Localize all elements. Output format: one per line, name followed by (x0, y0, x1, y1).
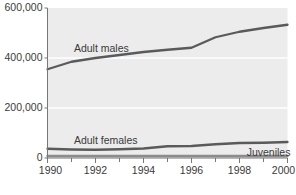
x-axis-tick-label: 1994 (124, 164, 164, 176)
x-axis-tick-label: 2000 (264, 164, 296, 176)
y-axis-tick-label: 400,000 (5, 51, 43, 63)
series-label-adult-females: Adult females (74, 134, 138, 146)
x-axis-tick-label: 1996 (172, 164, 212, 176)
x-axis-tick-label: 1998 (220, 164, 260, 176)
series-label-adult-males: Adult males (74, 42, 129, 54)
x-axis-tick-label: 1990 (31, 164, 71, 176)
y-axis-tick-label: 0 (37, 151, 43, 163)
series-label-juveniles: Juveniles (247, 146, 291, 158)
y-axis-tick-label: 200,000 (5, 101, 43, 113)
x-axis-tick-label: 1992 (76, 164, 116, 176)
y-axis-tick-label: 600,000 (5, 1, 43, 13)
chart-figure: 0200,000400,000600,000 19901992199419961… (0, 0, 295, 195)
